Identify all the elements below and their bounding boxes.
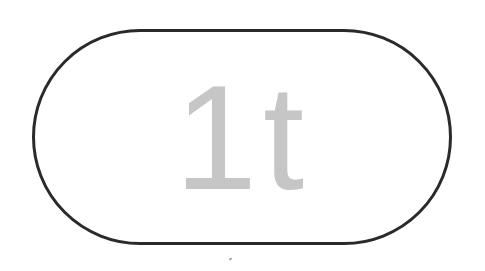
badge-label: 1t xyxy=(0,0,485,271)
